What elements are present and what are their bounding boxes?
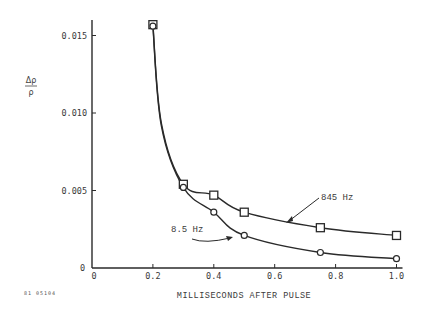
x-tick-label: 0.6 [267, 271, 282, 281]
y-axis-title-denominator: ρ [28, 88, 33, 97]
y-tick-label: 0.005 [61, 186, 87, 196]
data-point-square [240, 208, 248, 216]
y-axis-title-numerator: Δρ [26, 76, 37, 85]
labels: 00.20.40.60.81.000.0050.0100.015MILLISEC… [24, 31, 404, 302]
annotation-arrow-8-5hz [192, 238, 230, 241]
figure-id: 81 05104 [24, 290, 56, 296]
data-point-circle [180, 184, 186, 190]
x-tick-label: 0.8 [328, 271, 343, 281]
y-tick-label: 0.015 [61, 31, 87, 41]
annotation-8-5hz: 8.5 Hz [171, 225, 203, 235]
data-point-square [316, 224, 324, 232]
y-tick-label: 0 [80, 263, 85, 273]
annotation-arrowhead-8-5hz [226, 236, 233, 241]
annotation-arrowhead-845hz [286, 216, 293, 223]
chart: 00.20.40.60.81.000.0050.0100.015MILLISEC… [0, 0, 432, 316]
annotation-845hz: 845 Hz [321, 193, 353, 203]
x-tick-label: 0.2 [145, 271, 160, 281]
y-tick-label: 0.010 [61, 108, 87, 118]
curves [153, 25, 397, 259]
x-tick-label: 1.0 [389, 271, 404, 281]
data-point-circle [211, 209, 217, 215]
data-point-circle [241, 232, 247, 238]
series-line-845hz [153, 25, 397, 236]
x-tick-label: 0.4 [206, 271, 221, 281]
data-point-square [210, 191, 218, 199]
data-point-circle [394, 256, 400, 262]
data-point-circle [317, 250, 323, 256]
axes [92, 20, 403, 268]
x-tick-label: 0 [91, 271, 96, 281]
data-point-square [393, 231, 401, 239]
series-line-8-5hz [153, 26, 397, 259]
annotation-arrow-845hz [289, 198, 319, 221]
x-axis-title: MILLISECONDS AFTER PULSE [177, 291, 311, 301]
data-point-circle [150, 23, 156, 29]
